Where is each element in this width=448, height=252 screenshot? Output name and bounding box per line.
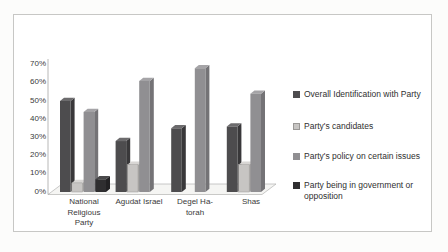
- y-tick-label: 60%: [18, 77, 46, 87]
- y-tick-label: 50%: [18, 96, 46, 106]
- bar-national-religious-party-s3: [84, 112, 95, 192]
- bar-agudat-israel-s3: [139, 81, 150, 192]
- legend-label: Overall Identification with Party: [304, 89, 421, 100]
- legend-item: Party's policy on certain issues: [293, 151, 435, 162]
- bar-national-religious-party-s2: [72, 183, 83, 192]
- legend-swatch-icon: [293, 182, 300, 189]
- bar-national-religious-party-s4: [95, 179, 106, 192]
- bar-national-religious-party-s1: [60, 101, 71, 192]
- bar-side-face: [205, 65, 209, 192]
- legend-swatch-icon: [293, 153, 300, 160]
- y-tick-label: 70%: [18, 59, 46, 69]
- x-category-label: Shas: [219, 197, 283, 208]
- bar-shas-s1: [227, 126, 238, 192]
- bar-side-face: [71, 98, 75, 192]
- legend-label: Party being in government or opposition: [304, 180, 435, 202]
- bar-side-face: [150, 78, 154, 192]
- legend-label: Party's candidates: [304, 121, 373, 132]
- legend-label: Party's policy on certain issues: [304, 151, 420, 162]
- chart-screenshot: 0% 10% 20% 30% 40% 50% 60% 70% National …: [0, 0, 448, 252]
- legend-item: Party being in government or opposition: [293, 180, 435, 202]
- bar-side-face: [261, 91, 265, 192]
- y-tick-label: 10%: [18, 168, 46, 178]
- bar-degel-ha-torah-s1: [171, 128, 182, 192]
- legend-item: Party's candidates: [293, 121, 435, 132]
- x-category-label: Agudat Israel: [107, 197, 171, 208]
- legend-swatch-icon: [293, 91, 300, 98]
- y-tick-label: 0%: [18, 187, 46, 197]
- legend-swatch-icon: [293, 123, 300, 130]
- y-tick-label: 40%: [18, 114, 46, 124]
- bar-shas-s2: [239, 165, 250, 192]
- bar-agudat-israel-s1: [116, 141, 127, 192]
- bar-shas-s3: [250, 94, 261, 192]
- bar-degel-ha-torah-s3: [195, 68, 206, 192]
- bar-agudat-israel-s2: [127, 165, 138, 192]
- y-tick-label: 30%: [18, 132, 46, 142]
- legend-item: Overall Identification with Party: [293, 89, 435, 100]
- bar-side-face: [182, 125, 186, 192]
- x-category-label: Degel Ha- torah: [163, 197, 227, 218]
- y-tick-label: 20%: [18, 150, 46, 160]
